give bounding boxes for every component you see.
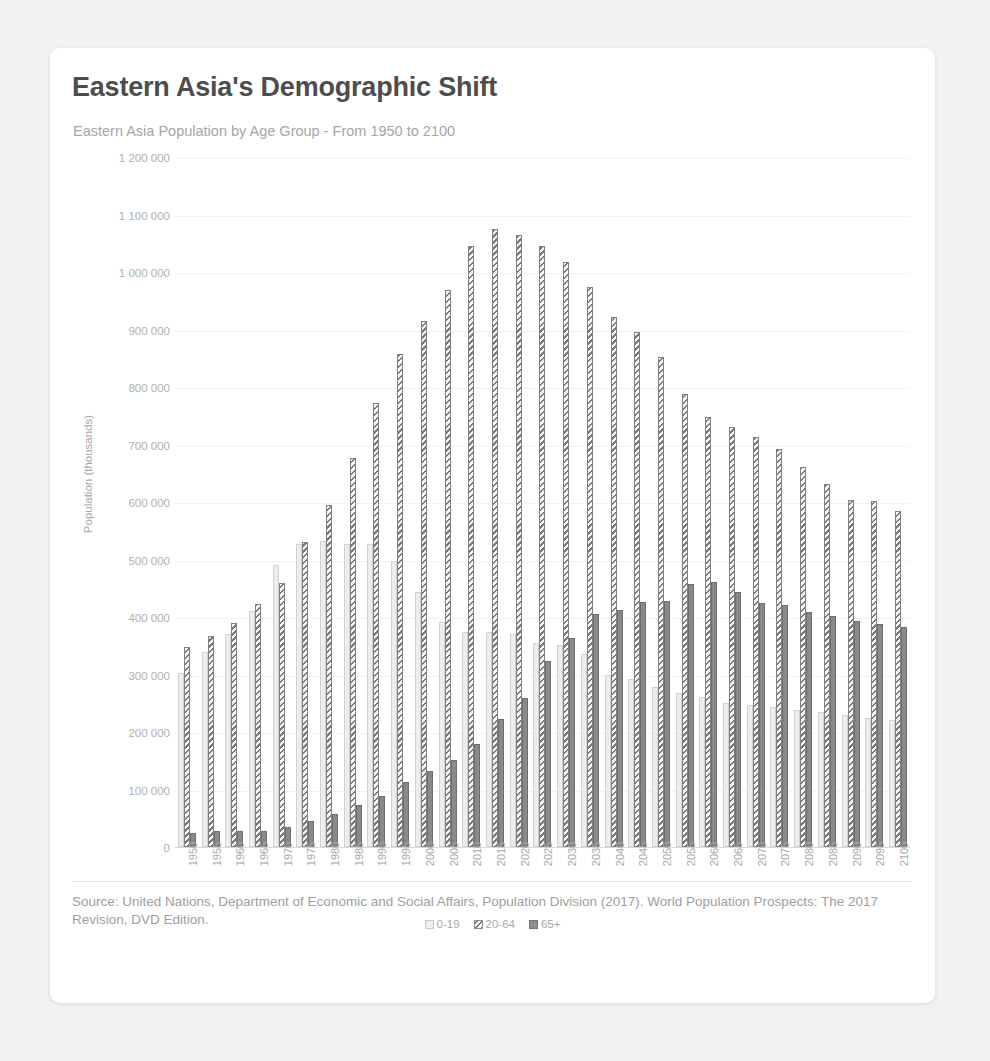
bar-65plus: [688, 584, 694, 847]
x-tick-label: 1990: [376, 842, 388, 866]
bar-65plus: [403, 782, 409, 847]
bar-65plus: [711, 582, 717, 847]
bar-20-64: [397, 354, 403, 847]
bar-65plus: [640, 602, 646, 847]
bar-20-64: [255, 604, 261, 847]
x-tick-label: 2050: [661, 842, 673, 866]
bar-65plus: [664, 601, 670, 847]
bar-20-64: [302, 542, 308, 847]
y-tick-label: 1 000 000: [60, 267, 170, 279]
bar-groups: [175, 158, 910, 847]
x-tick-label: 2100: [898, 842, 910, 866]
bar-group: [388, 158, 412, 847]
bar-group: [744, 158, 768, 847]
bar-20-64: [326, 505, 332, 847]
bar-group: [436, 158, 460, 847]
bar-65plus: [830, 616, 836, 847]
y-tick-label: 900 000: [60, 325, 170, 337]
x-tick-label: 1970: [282, 842, 294, 866]
bar-20-64: [373, 403, 379, 847]
x-tick-label: 2040: [614, 842, 626, 866]
x-tick-label: 2085: [827, 842, 839, 866]
y-tick-label: 1 200 000: [60, 152, 170, 164]
source-note: Source: United Nations, Department of Ec…: [72, 893, 917, 929]
y-tick-label: 600 000: [60, 497, 170, 509]
x-tick-label: 2015: [495, 842, 507, 866]
x-tick-label: 2000: [424, 842, 436, 866]
bar-group: [507, 158, 531, 847]
x-tick-label: 2055: [685, 842, 697, 866]
bar-20-64: [231, 623, 237, 847]
x-tick-label: 1950: [187, 842, 199, 866]
bar-group: [791, 158, 815, 847]
bar-group: [673, 158, 697, 847]
x-tick-label: 2010: [471, 842, 483, 866]
x-tick-label: 2065: [732, 842, 744, 866]
bar-group: [483, 158, 507, 847]
bar-65plus: [759, 603, 765, 847]
bar-group: [649, 158, 673, 847]
bar-group: [459, 158, 483, 847]
bar-group: [886, 158, 910, 847]
x-tick-label: 2070: [756, 842, 768, 866]
y-tick-label: 700 000: [60, 440, 170, 452]
x-tick-label: 1955: [211, 842, 223, 866]
bar-group: [862, 158, 886, 847]
x-tick-label: 2090: [851, 842, 863, 866]
bar-20-64: [421, 321, 427, 847]
x-tick-label: 2060: [708, 842, 720, 866]
y-tick-label: 100 000: [60, 785, 170, 797]
bar-group: [815, 158, 839, 847]
screenshot-root: Eastern Asia's Demographic Shift Eastern…: [0, 0, 990, 1061]
bar-group: [294, 158, 318, 847]
chart-card: Eastern Asia's Demographic Shift Eastern…: [50, 48, 935, 1003]
y-tick-label: 400 000: [60, 612, 170, 624]
bar-group: [578, 158, 602, 847]
y-tick-label: 800 000: [60, 382, 170, 394]
bar-65plus: [806, 612, 812, 847]
bar-65plus: [617, 610, 623, 847]
x-tick-label: 2095: [874, 842, 886, 866]
bar-65plus: [498, 719, 504, 847]
x-tick-label: 2005: [448, 842, 460, 866]
chart-title: Eastern Asia's Demographic Shift: [72, 72, 497, 103]
bar-65plus: [356, 805, 362, 847]
bar-65plus: [854, 621, 860, 847]
x-tick-label: 1965: [258, 842, 270, 866]
bar-group: [199, 158, 223, 847]
bar-65plus: [451, 760, 457, 847]
y-tick-label: 1 100 000: [60, 210, 170, 222]
bar-20-64: [184, 647, 190, 847]
bar-group: [341, 158, 365, 847]
bar-group: [175, 158, 199, 847]
bar-20-64: [350, 458, 356, 847]
bar-group: [270, 158, 294, 847]
bar-65plus: [593, 614, 599, 847]
y-tick-label: 0: [60, 842, 170, 854]
bar-group: [365, 158, 389, 847]
bar-group: [720, 158, 744, 847]
x-tick-label: 1985: [353, 842, 365, 866]
y-tick-label: 500 000: [60, 555, 170, 567]
chart-subtitle: Eastern Asia Population by Age Group - F…: [73, 123, 455, 139]
bar-group: [317, 158, 341, 847]
bar-65plus: [427, 771, 433, 847]
x-tick-label: 2035: [590, 842, 602, 866]
bar-group: [602, 158, 626, 847]
bar-group: [768, 158, 792, 847]
bar-group: [554, 158, 578, 847]
x-tick-label: 1960: [234, 842, 246, 866]
bar-65plus: [901, 627, 907, 847]
bar-20-64: [279, 583, 285, 847]
bar-group: [222, 158, 246, 847]
bar-group: [839, 158, 863, 847]
x-tick-label: 1975: [305, 842, 317, 866]
bar-20-64: [208, 636, 214, 847]
source-divider: [72, 881, 912, 882]
x-tick-label: 2075: [779, 842, 791, 866]
bar-65plus: [545, 661, 551, 847]
x-tick-label: 2045: [637, 842, 649, 866]
bar-65plus: [522, 698, 528, 847]
x-tick-label: 2030: [566, 842, 578, 866]
y-tick-label: 300 000: [60, 670, 170, 682]
